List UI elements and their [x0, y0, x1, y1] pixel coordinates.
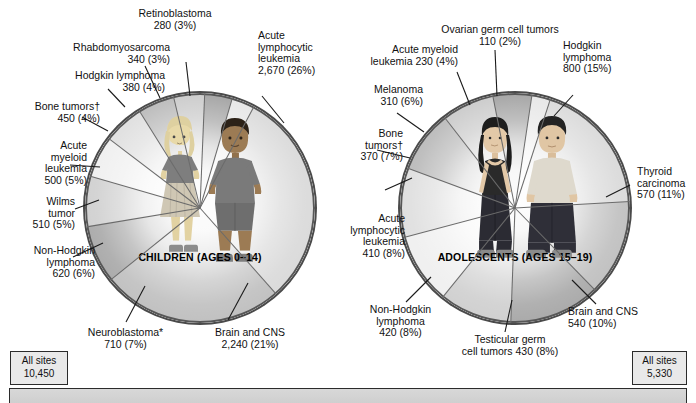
label-retinoblastoma: Retinoblastoma 280 (3%) — [120, 8, 230, 31]
label-hodgkin-lymphoma: Hodgkin lymphoma 800 (15%) — [563, 40, 643, 75]
infographic-stage: CHILDREN (AGES 0–14) — [0, 0, 696, 403]
pie-slice — [85, 93, 315, 323]
adolescents-pie-slices — [400, 93, 630, 323]
children-pie-chart: CHILDREN (AGES 0–14) — [85, 93, 315, 323]
all-sites-label: All sites — [639, 355, 680, 368]
bottom-panel-strip — [9, 388, 687, 403]
all-sites-value: 5,330 — [639, 368, 680, 381]
all-sites-label: All sites — [17, 355, 61, 368]
label-thyroid-carcinoma: Thyroid carcinoma 570 (11%) — [637, 166, 695, 201]
all-sites-box-children: All sites 10,450 — [10, 351, 68, 385]
label-testicular-germ-cell-tumors: Testicular germ cell tumors 430 (8%) — [445, 334, 575, 357]
label-acute-myeloid-leukemia: Acute myeloid leukemia 230 (4%) — [338, 44, 458, 67]
label-neuroblastoma: Neuroblastoma* 710 (7%) — [63, 327, 188, 350]
label-bone-tumors: Bone tumors† 450 (4%) — [5, 101, 100, 124]
label-wilms-tumor: Wilms tumor 510 (5%) — [5, 196, 75, 231]
label-melanoma: Melanoma 310 (6%) — [338, 84, 423, 107]
all-sites-box-adolescents: All sites 5,330 — [632, 351, 687, 385]
label-rhabdomyosarcoma: Rhabdomyosarcoma 340 (3%) — [10, 42, 170, 65]
label-brain-and-cns: Brain and CNS 2,240 (21%) — [195, 327, 305, 350]
pie-slice — [400, 93, 630, 323]
children-pie-slices — [85, 93, 315, 323]
label-bone-tumors: Bone tumors† 370 (7%) — [338, 128, 403, 163]
label-brain-and-cns: Brain and CNS 540 (10%) — [568, 306, 678, 329]
label-acute-lymphocytic-leukemia: Acute lymphocytic leukemia 410 (8%) — [330, 213, 405, 259]
all-sites-value: 10,450 — [17, 368, 61, 381]
label-non-hodgkin-lymphoma: Non-Hodgkin lymphoma 420 (8%) — [348, 304, 453, 339]
adolescents-pie-chart: ADOLESCENTS (AGES 15–19) — [400, 93, 630, 323]
label-acute-myeloid-leukemia: Acute myeloid leukemia 500 (5%) — [5, 140, 87, 186]
label-non-hodgkin-lymphoma: Non-Hodgkin lymphoma 620 (6%) — [5, 245, 95, 280]
label-hodgkin-lymphoma: Hodgkin lymphoma 380 (4%) — [5, 70, 165, 93]
